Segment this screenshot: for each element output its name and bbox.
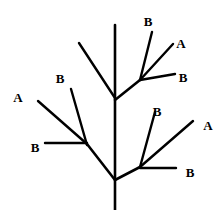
label-left-lower-b: B <box>31 141 40 154</box>
label-lower-right-b: B <box>153 105 162 118</box>
label-upper-right-a: A <box>176 37 185 50</box>
lower-right-main-branch <box>115 167 140 180</box>
label-upper-right-b: B <box>179 71 188 84</box>
label-lower-right-flat-b: B <box>186 166 195 179</box>
upper-left-plain-branch <box>79 43 115 98</box>
left-main-branch <box>87 144 115 180</box>
label-left-upper-b: B <box>56 72 65 85</box>
label-upper-right-top-b: B <box>144 15 153 28</box>
upper-right-main-branch <box>115 80 140 100</box>
tree-line-group <box>38 25 193 210</box>
label-lower-right-a: A <box>203 119 212 132</box>
label-left-a: A <box>13 91 22 104</box>
lower-right-diagonal-branch <box>140 121 193 167</box>
branching-tree-figure: BABABBBAB <box>0 0 222 210</box>
lower-right-steep-branch <box>140 112 155 167</box>
